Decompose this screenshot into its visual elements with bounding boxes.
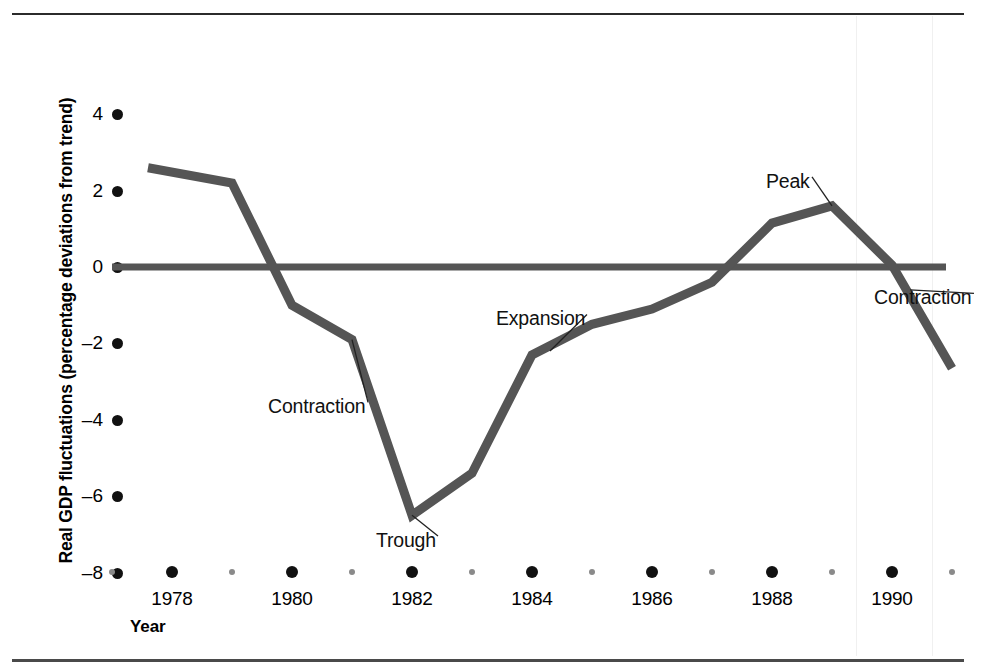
annotation-expansion: Expansion [496, 307, 585, 330]
annotation-trough: Trough [376, 529, 436, 552]
annotation-contraction: Contraction [874, 286, 972, 309]
gdp-fluctuation-line [148, 168, 952, 516]
annotation-leader-lines [352, 177, 974, 536]
figure-container: Real GDP fluctuations (percentage deviat… [0, 0, 982, 667]
plot-area [0, 0, 982, 667]
leader-line [812, 177, 832, 206]
annotation-contraction: Contraction [268, 395, 366, 418]
annotation-peak: Peak [766, 170, 810, 193]
